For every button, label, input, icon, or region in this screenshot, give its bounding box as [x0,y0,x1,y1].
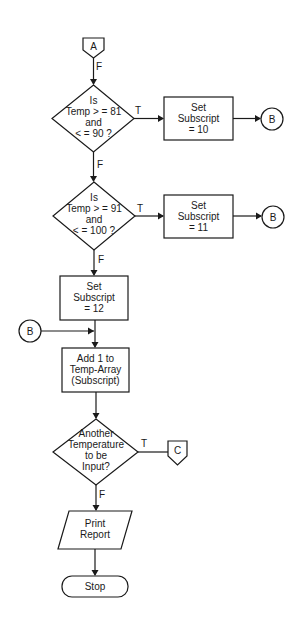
io-print-report: Print Report [58,511,132,549]
svg-text:Another: Another [78,428,114,439]
svg-text:Set: Set [191,102,206,113]
connector-b-2: B [262,206,284,228]
decision3-false-label: F [99,489,105,500]
svg-text:= 10: = 10 [189,124,209,135]
svg-text:= 12: = 12 [84,303,104,314]
decision-temp-81-90: Is Temp > = 81 and < = 90 ? [52,85,134,152]
connector-a-label: A [90,41,97,52]
decision1-true-label: T [135,105,141,116]
svg-text:C: C [174,445,181,456]
svg-text:(Subscript): (Subscript) [71,375,119,386]
decision-another-temperature: Another Temperature to be Input? [53,419,138,485]
svg-text:and: and [86,214,103,225]
start-flow-label: F [96,61,102,72]
flowchart: A F Is Temp > = 81 and < = 90 ? T Set Su… [0,0,304,630]
connector-b-1: B [261,108,283,130]
svg-text:and: and [85,117,102,128]
process-set-subscript-12: Set Subscript = 12 [60,276,128,320]
decision3-true-label: T [141,438,147,449]
svg-text:to be: to be [85,450,108,461]
svg-text:Is: Is [90,192,98,203]
svg-text:Set: Set [191,200,206,211]
svg-text:Print: Print [85,518,106,529]
svg-text:B: B [270,212,277,223]
decision-temp-91-100: Is Temp > = 91 and < = 100 ? [53,182,135,250]
svg-text:B: B [27,326,34,337]
svg-text:Temp > = 81: Temp > = 81 [66,106,122,117]
svg-text:< = 100 ?: < = 100 ? [73,225,116,236]
svg-text:Temp-Array: Temp-Array [70,364,122,375]
svg-text:< = 90 ?: < = 90 ? [75,128,112,139]
connector-b-in: B [19,320,41,342]
terminal-stop: Stop [62,576,128,597]
svg-text:Subscript: Subscript [73,292,115,303]
decision2-false-label: F [98,254,104,265]
svg-text:= 11: = 11 [189,222,208,233]
process-add-to-temp-array: Add 1 to Temp-Array (Subscript) [62,348,129,392]
process-set-subscript-11: Set Subscript = 11 [164,195,233,238]
decision1-false-label: F [97,159,103,170]
svg-text:Subscript: Subscript [178,113,220,124]
svg-text:Subscript: Subscript [178,211,220,222]
connector-c: C [168,441,187,465]
connector-a: A [83,38,104,58]
svg-text:Stop: Stop [85,581,106,592]
svg-text:Report: Report [80,529,110,540]
process-set-subscript-10: Set Subscript = 10 [164,97,233,140]
svg-text:Add 1 to: Add 1 to [77,353,115,364]
svg-text:Is: Is [90,95,98,106]
svg-text:Temp > = 91: Temp > = 91 [66,203,122,214]
svg-text:B: B [269,114,276,125]
svg-text:Set: Set [86,281,101,292]
svg-text:Temperature: Temperature [68,439,125,450]
decision2-true-label: T [137,203,143,214]
svg-text:Input?: Input? [82,461,110,472]
